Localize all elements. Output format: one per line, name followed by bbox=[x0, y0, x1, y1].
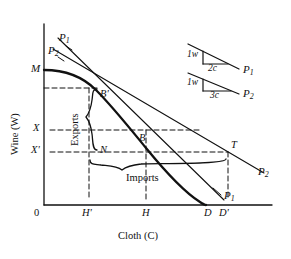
p2-leader-upper bbox=[58, 57, 64, 61]
exports-label: Exports bbox=[70, 113, 81, 146]
p1-leader-lower bbox=[213, 188, 221, 195]
inset-triangle1-line-label: P1 bbox=[243, 64, 254, 77]
label-p2-right: P2 bbox=[258, 166, 269, 179]
inset-triangle1-line-sub: 1 bbox=[250, 68, 254, 77]
inset-triangle1-line-text: P bbox=[243, 63, 250, 75]
label-p1-upper-sub: 1 bbox=[66, 36, 70, 45]
inset-triangle2-line-sub: 2 bbox=[250, 92, 254, 101]
inset-triangle2-horizontal-label: 3c bbox=[210, 91, 219, 101]
label-p1-upper: P1 bbox=[59, 32, 70, 45]
imports-label: Imports bbox=[126, 173, 159, 184]
label-p2-upper-sub: 2 bbox=[55, 49, 59, 58]
y-tick-x: X bbox=[33, 123, 39, 134]
point-b: B bbox=[139, 133, 145, 144]
label-p2-upper: P2 bbox=[48, 45, 59, 58]
label-p1-right-text: P bbox=[224, 189, 231, 201]
point-t: T bbox=[231, 140, 237, 151]
y-tick-m: M bbox=[31, 63, 40, 74]
label-p1-right: P1 bbox=[224, 190, 235, 203]
price-line-p2 bbox=[53, 49, 264, 173]
inset-triangle1-horizontal-label: 2c bbox=[208, 64, 217, 74]
label-p2-right-text: P bbox=[258, 165, 265, 177]
x-axis-title: Cloth (C) bbox=[118, 231, 158, 242]
y-axis-title: Wine (W) bbox=[10, 113, 21, 155]
x-tick-dprime: D' bbox=[219, 208, 229, 219]
inset-triangle2-vertical-label: 1w bbox=[187, 78, 198, 88]
inset-triangle1-vertical-label: 1w bbox=[187, 50, 198, 60]
x-tick-d: D bbox=[204, 208, 212, 219]
x-tick-hprime: H' bbox=[82, 208, 92, 219]
exports-brace bbox=[86, 89, 97, 150]
diagram-canvas bbox=[0, 0, 291, 259]
label-p2-right-sub: 2 bbox=[265, 170, 269, 179]
origin-label: 0 bbox=[34, 208, 39, 219]
x-tick-h: H bbox=[142, 208, 150, 219]
point-n: N bbox=[100, 145, 107, 156]
inset-triangle2-line-label: P2 bbox=[243, 88, 254, 101]
ppf-trade-diagram: Wine (W) Cloth (C) 0 H' H D D' M X X' B'… bbox=[0, 0, 291, 259]
y-tick-xprime: X' bbox=[31, 145, 40, 156]
inset-triangle2-line-text: P bbox=[243, 87, 250, 99]
label-p2-upper-text: P bbox=[48, 44, 55, 56]
point-b-prime: B' bbox=[100, 89, 109, 100]
label-p1-right-sub: 1 bbox=[231, 194, 235, 203]
label-p1-upper-text: P bbox=[59, 31, 66, 43]
